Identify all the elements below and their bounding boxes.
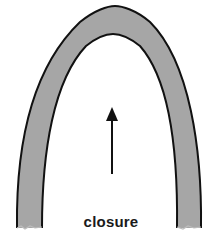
arch-diagram [0,0,209,241]
arrow-up-icon [106,107,118,174]
closure-label: closure [0,213,209,230]
